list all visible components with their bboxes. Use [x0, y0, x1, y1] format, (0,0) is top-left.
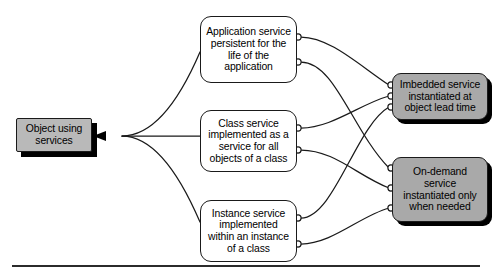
imbedded-service-box[interactable]: Imbedded service instantiated at object …	[392, 73, 488, 120]
edge-source-to-application	[122, 52, 200, 136]
edge-application-to-imbedded	[301, 37, 389, 85]
bottom-divider	[12, 265, 480, 267]
application-service-label: Application service persistent for the l…	[201, 26, 296, 73]
edge-instance-to-imbedded	[301, 107, 389, 218]
object-using-services-label: Object using services	[17, 123, 91, 146]
application-service-box[interactable]: Application service persistent for the l…	[200, 16, 297, 83]
instance-service-label: Instance service implemented within an i…	[201, 208, 296, 255]
diagram-canvas: Object using services Application servic…	[0, 0, 492, 279]
instance-service-box[interactable]: Instance service implemented within an i…	[200, 200, 297, 262]
on-demand-service-label: On-demand service instantiated only when…	[393, 166, 487, 213]
on-demand-service-box[interactable]: On-demand service instantiated only when…	[392, 157, 488, 222]
class-service-label: Class service implemented as a service f…	[201, 118, 296, 165]
object-using-services-box[interactable]: Object using services	[16, 118, 92, 152]
class-service-box[interactable]: Class service implemented as a service f…	[200, 110, 297, 172]
edge-source-to-instance	[122, 136, 200, 222]
imbedded-service-label: Imbedded service instantiated at object …	[393, 79, 487, 114]
edge-class-to-imbedded	[301, 96, 389, 128]
